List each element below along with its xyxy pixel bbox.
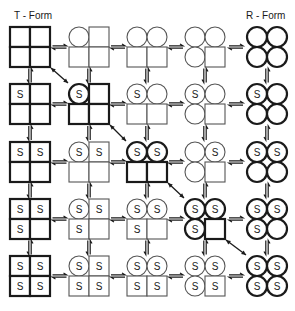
r-subunit-circle (267, 84, 287, 104)
ligand-s-label: S (96, 204, 103, 215)
r-subunit-circle (205, 27, 225, 47)
horizontal-equilibrium-arrow (229, 159, 243, 165)
ligand-s-label: S (134, 204, 141, 215)
r-subunit-circle (247, 47, 267, 67)
allosteric-transition-diagram: SSSSSSSSSSSSSSSSSSSSSSSSSSSSSSSSSSSSSSSS… (0, 0, 295, 311)
ligand-s-label: S (134, 224, 141, 235)
horizontal-equilibrium-arrow (111, 216, 125, 222)
vertical-equilibrium-arrow (202, 69, 208, 83)
t-subunit-square (30, 27, 50, 47)
t-subunit-square (30, 104, 50, 124)
state-r4-c2: SSSS (127, 256, 167, 296)
r-subunit-circle (267, 219, 287, 239)
vertical-equilibrium-arrow (86, 241, 92, 255)
horizontal-equilibrium-arrow (169, 273, 183, 279)
r-subunit-circle (147, 84, 167, 104)
ligand-s-label: S (17, 261, 24, 272)
vertical-equilibrium-arrow (202, 184, 208, 198)
vertical-equilibrium-arrow (27, 69, 33, 83)
vertical-equilibrium-arrow (86, 184, 92, 198)
ligand-s-label: S (37, 204, 44, 215)
horizontal-equilibrium-arrow (111, 273, 125, 279)
r-subunit-circle (185, 142, 205, 162)
t-subunit-square (10, 162, 30, 182)
r-subunit-circle (247, 104, 267, 124)
ligand-s-label: S (254, 89, 261, 100)
vertical-equilibrium-arrow (86, 69, 92, 83)
ligand-s-label: S (96, 147, 103, 158)
vertical-equilibrium-arrow (264, 126, 270, 140)
state-r2-c1: SS (69, 142, 109, 182)
ligand-s-label: S (192, 224, 199, 235)
t-subunit-square (147, 219, 167, 239)
ligand-s-label: S (212, 281, 219, 292)
t-subunit-square (147, 104, 167, 124)
vertical-equilibrium-arrow (144, 69, 150, 83)
state-r1-c4: S (247, 84, 287, 124)
horizontal-equilibrium-arrow (169, 101, 183, 107)
ligand-s-label: S (17, 204, 24, 215)
vertical-equilibrium-arrow (27, 126, 33, 140)
vertical-equilibrium-arrow (264, 184, 270, 198)
ligand-s-label: S (96, 261, 103, 272)
horizontal-equilibrium-arrow (53, 273, 67, 279)
t-subunit-square (89, 162, 109, 182)
ligand-s-label: S (192, 261, 199, 272)
ligand-s-label: S (37, 261, 44, 272)
t-subunit-square (147, 162, 167, 182)
t-subunit-square (69, 47, 89, 67)
state-r0-c1 (69, 27, 109, 67)
r-subunit-circle (267, 27, 287, 47)
horizontal-equilibrium-arrow (111, 101, 125, 107)
vertical-equilibrium-arrow (86, 126, 92, 140)
state-r1-c3: S (185, 84, 225, 124)
ligand-s-label: S (17, 224, 24, 235)
ligand-s-label: S (76, 204, 83, 215)
ligand-s-label: S (76, 224, 83, 235)
ligand-s-label: S (17, 147, 24, 158)
t-subunit-square (69, 162, 89, 182)
ligand-s-label: S (254, 147, 261, 158)
horizontal-equilibrium-arrow (169, 159, 183, 165)
ligand-s-label: S (76, 261, 83, 272)
ligand-s-label: S (96, 281, 103, 292)
t-subunit-square (147, 47, 167, 67)
r-subunit-circle (185, 47, 205, 67)
ligand-s-label: S (254, 204, 261, 215)
horizontal-equilibrium-arrow (111, 159, 125, 165)
r-subunit-circle (147, 27, 167, 47)
ligand-s-label: S (212, 204, 219, 215)
vertical-equilibrium-arrow (144, 184, 150, 198)
t-subunit-square (127, 104, 147, 124)
t-subunit-square (30, 162, 50, 182)
state-r0-c3 (185, 27, 225, 67)
vertical-equilibrium-arrow (27, 241, 33, 255)
t-subunit-square (205, 104, 225, 124)
t-subunit-square (10, 27, 30, 47)
vertical-equilibrium-arrow (27, 184, 33, 198)
r-subunit-circle (247, 27, 267, 47)
state-r3-c0: SSS (10, 199, 50, 239)
r-subunit-circle (127, 27, 147, 47)
r-subunit-circle (267, 104, 287, 124)
ligand-s-label: S (274, 261, 281, 272)
ligand-s-label: S (37, 281, 44, 292)
state-r0-c4 (247, 27, 287, 67)
horizontal-equilibrium-arrow (53, 44, 67, 50)
t-subunit-square (89, 84, 109, 104)
ligand-s-label: S (192, 89, 199, 100)
r-subunit-circle (185, 27, 205, 47)
horizontal-equilibrium-arrow (111, 44, 125, 50)
ligand-s-label: S (254, 281, 261, 292)
t-subunit-square (89, 47, 109, 67)
horizontal-equilibrium-arrow (169, 216, 183, 222)
ligand-s-label: S (154, 204, 161, 215)
r-subunit-circle (205, 84, 225, 104)
state-r3-c3: SSS (185, 199, 225, 239)
t-subunit-square (10, 47, 30, 67)
ligand-s-label: S (76, 147, 83, 158)
ligand-s-label: S (134, 147, 141, 158)
horizontal-equilibrium-arrow (169, 44, 183, 50)
horizontal-equilibrium-arrow (229, 101, 243, 107)
ligand-s-label: S (254, 224, 261, 235)
